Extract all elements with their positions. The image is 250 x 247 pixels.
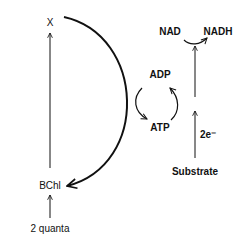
label-adp: ADP	[149, 69, 170, 80]
arrow-adp-to-atp	[136, 88, 147, 119]
arrow-nad-to-nadh	[184, 38, 207, 44]
label-electrons: 2e⁻	[200, 129, 216, 140]
arrow-atp-to-adp	[170, 88, 178, 120]
label-atp: ATP	[150, 122, 170, 133]
label-nad: NAD	[159, 26, 181, 37]
arc-x-to-bchl	[64, 17, 127, 186]
photosynthesis-diagram: X BChl 2 quanta ADP ATP NAD NADH 2e⁻ Sub…	[0, 0, 250, 247]
label-x: X	[47, 17, 54, 28]
label-substrate: Substrate	[172, 166, 219, 177]
label-nadh: NADH	[204, 26, 233, 37]
label-bchl: BChl	[39, 180, 61, 191]
label-quanta: 2 quanta	[31, 223, 70, 234]
